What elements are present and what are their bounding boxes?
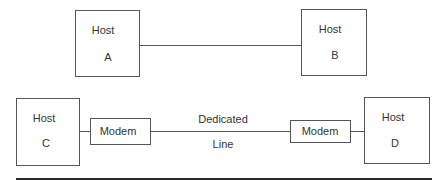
- connection-modem-host-d: [350, 131, 365, 132]
- dedicated-line-label-1: Dedicated: [198, 114, 248, 125]
- host-d-id: D: [391, 138, 399, 149]
- connection-a-b: [139, 45, 302, 46]
- host-c-box: [16, 98, 80, 166]
- modem-c-label: Modem: [100, 126, 137, 137]
- host-c-label: Host: [33, 113, 56, 124]
- dedicated-line: [150, 131, 291, 132]
- modem-d-label: Modem: [302, 126, 339, 137]
- host-a-label: Host: [92, 25, 115, 36]
- host-a-box: [75, 10, 140, 77]
- host-d-label: Host: [382, 112, 405, 123]
- bottom-rule: [16, 178, 432, 180]
- host-b-box: [301, 9, 367, 76]
- host-b-id: B: [331, 50, 338, 61]
- host-a-id: A: [104, 52, 111, 63]
- dedicated-line-label-2: Line: [213, 139, 234, 150]
- host-b-label: Host: [319, 24, 342, 35]
- host-d-box: [364, 97, 430, 164]
- host-c-id: C: [42, 138, 50, 149]
